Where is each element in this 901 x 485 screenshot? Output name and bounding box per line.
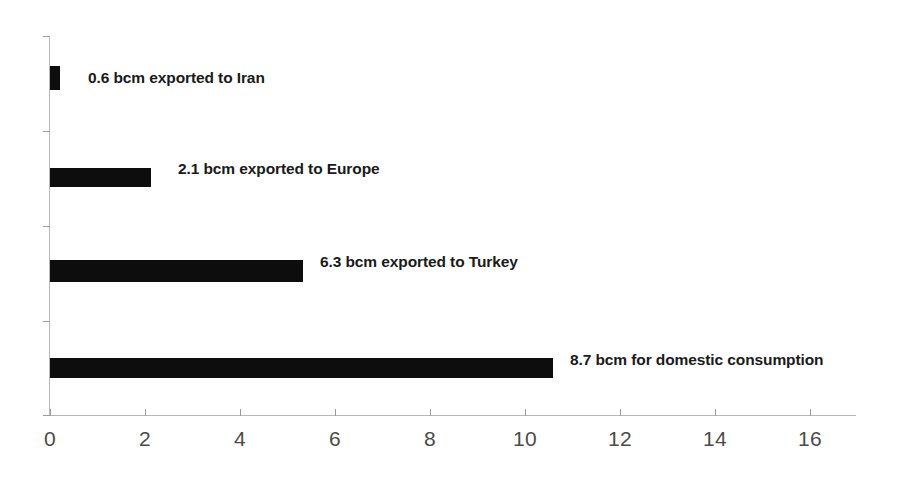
y-axis-tick bbox=[43, 321, 50, 322]
data-label-domestic: 8.7 bcm for domestic consumption bbox=[570, 351, 823, 369]
x-axis-tick bbox=[715, 409, 716, 416]
y-axis-tick bbox=[43, 415, 50, 416]
bar-turkey bbox=[50, 260, 303, 282]
x-axis-tick bbox=[50, 409, 51, 416]
x-axis-tick bbox=[335, 409, 336, 416]
x-axis-tick bbox=[240, 409, 241, 416]
x-axis-tick bbox=[525, 409, 526, 416]
x-axis-tick bbox=[620, 409, 621, 416]
bar-domestic bbox=[50, 358, 553, 378]
y-axis-tick bbox=[43, 36, 50, 37]
x-tick-label: 8 bbox=[400, 427, 460, 451]
x-axis-tick bbox=[430, 409, 431, 416]
x-axis-tick bbox=[810, 409, 811, 416]
data-label-iran: 0.6 bcm exported to Iran bbox=[88, 69, 265, 87]
x-tick-label: 10 bbox=[495, 427, 555, 451]
x-axis-line bbox=[50, 415, 856, 416]
data-label-turkey: 6.3 bcm exported to Turkey bbox=[320, 253, 518, 271]
x-tick-label: 6 bbox=[305, 427, 365, 451]
x-tick-label: 12 bbox=[590, 427, 650, 451]
data-label-europe: 2.1 bcm exported to Europe bbox=[178, 160, 380, 178]
x-axis-tick bbox=[145, 409, 146, 416]
x-tick-label: 4 bbox=[210, 427, 270, 451]
bar-europe bbox=[50, 168, 151, 187]
y-axis-tick bbox=[43, 226, 50, 227]
y-axis-tick bbox=[43, 131, 50, 132]
bar-chart: 0.6 bcm exported to Iran 2.1 bcm exporte… bbox=[0, 0, 901, 485]
x-tick-label: 16 bbox=[780, 427, 840, 451]
bar-iran bbox=[50, 66, 60, 90]
x-tick-label: 2 bbox=[115, 427, 175, 451]
x-tick-label: 0 bbox=[20, 427, 80, 451]
x-tick-label: 14 bbox=[685, 427, 745, 451]
